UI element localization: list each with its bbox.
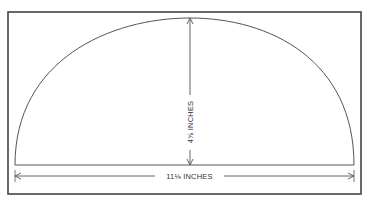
width-label: 11⅛ INCHES xyxy=(166,172,212,181)
height-label: 4⅝ INCHES xyxy=(186,101,195,144)
width-dimension: 11⅛ INCHES xyxy=(15,170,354,182)
arc-dimension-diagram: 4⅝ INCHES 11⅛ INCHES xyxy=(0,0,369,201)
height-dimension: 4⅝ INCHES xyxy=(186,18,195,165)
frame-border xyxy=(8,12,361,194)
arc-curve xyxy=(15,18,354,165)
